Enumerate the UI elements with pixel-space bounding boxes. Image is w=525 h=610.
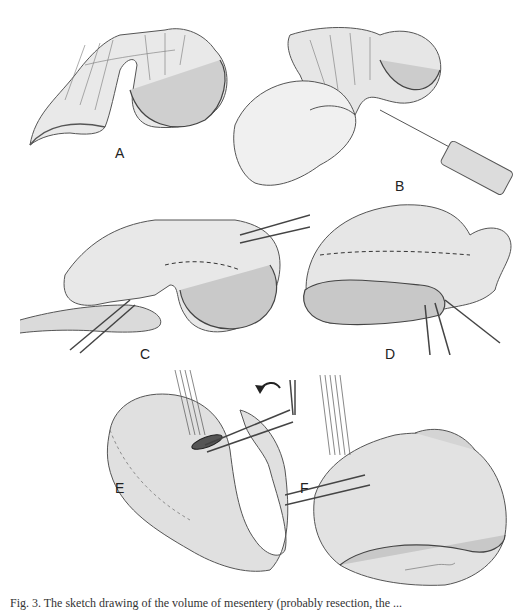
panel-e-illustration: [95, 370, 295, 575]
bowel-anastomosis-illustration-f: [285, 375, 525, 590]
panel-c-illustration: [15, 205, 310, 355]
panel-d-illustration: [300, 195, 525, 355]
bowel-injection-illustration-b: [230, 15, 525, 200]
panel-label-e: E: [115, 480, 124, 496]
panel-label-c: C: [140, 346, 150, 362]
panel-label-d: D: [385, 346, 395, 362]
panel-label-f: F: [300, 480, 309, 496]
panel-a-illustration: [25, 5, 240, 150]
bowel-illustration-a: [25, 5, 240, 150]
panel-b-illustration: [230, 15, 525, 200]
bowel-suture-illustration-e: [95, 370, 295, 575]
panel-label-a: A: [115, 145, 124, 161]
panel-label-b: B: [395, 178, 404, 194]
figure-caption: Fig. 3. The sketch drawing of the volume…: [10, 596, 520, 610]
bowel-clamp-illustration-c: [15, 205, 310, 355]
bowel-resection-illustration-d: [300, 195, 525, 355]
panel-f-illustration: [285, 375, 525, 590]
